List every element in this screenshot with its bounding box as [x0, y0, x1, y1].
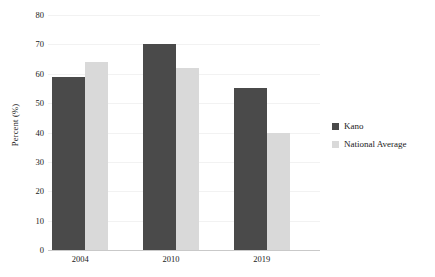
x-axis-tick-labels: 200420102019: [48, 252, 320, 272]
bar-kano-2019: [234, 88, 267, 250]
bars-layer: [48, 15, 320, 250]
axis-baseline: [48, 250, 320, 251]
legend-item-national-average[interactable]: National Average: [332, 140, 432, 149]
legend: KanoNational Average: [332, 122, 432, 158]
y-axis-tick-0: 0: [40, 246, 44, 255]
legend-swatch-icon: [332, 123, 339, 130]
x-axis-tick-2019: 2019: [253, 254, 270, 264]
y-axis-tick-10: 10: [36, 216, 45, 225]
y-axis-tick-labels: 01020304050607080: [22, 0, 44, 277]
bar-national-average-2010: [176, 68, 199, 250]
legend-swatch-icon: [332, 141, 339, 148]
y-axis-tick-70: 70: [36, 40, 45, 49]
y-axis-tick-50: 50: [36, 99, 45, 108]
legend-label: National Average: [344, 140, 407, 149]
y-axis-title-label: Percent (%): [10, 104, 20, 147]
bar-national-average-2004: [85, 62, 108, 250]
y-axis-tick-40: 40: [36, 128, 45, 137]
y-axis-tick-80: 80: [36, 11, 45, 20]
y-axis-tick-30: 30: [36, 158, 45, 167]
y-axis-tick-20: 20: [36, 187, 45, 196]
legend-item-kano[interactable]: Kano: [332, 122, 432, 131]
bar-kano-2010: [143, 44, 176, 250]
legend-label: Kano: [344, 122, 364, 131]
y-axis-tick-60: 60: [36, 70, 45, 79]
plot-area: [48, 15, 320, 250]
bar-chart: Percent (%) 01020304050607080 2004201020…: [0, 0, 435, 277]
x-axis-tick-2010: 2010: [163, 254, 180, 264]
bar-national-average-2019: [267, 133, 290, 251]
bar-kano-2004: [52, 77, 85, 250]
x-axis-tick-2004: 2004: [72, 254, 89, 264]
